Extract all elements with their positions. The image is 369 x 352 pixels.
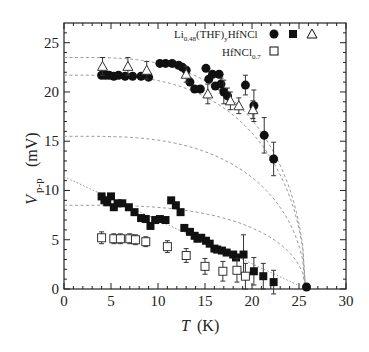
- y-tick-label: 15: [44, 133, 59, 149]
- x-tick-label: 15: [198, 293, 213, 309]
- legend-label-2: HfNCl0.7: [222, 46, 261, 61]
- y-axis-subscript: p-p: [32, 178, 44, 193]
- x-tick-label: 5: [107, 293, 115, 309]
- data-point-open-square: [219, 267, 227, 275]
- data-point-circle: [215, 70, 224, 79]
- data-point-open-square: [201, 262, 209, 270]
- legend-marker-square: [289, 30, 297, 38]
- data-point-circle: [196, 85, 205, 94]
- y-axis-unit: (mV): [23, 132, 41, 167]
- data-point-circle: [241, 81, 250, 90]
- data-point-square: [142, 215, 150, 223]
- data-point-open-square: [142, 238, 150, 246]
- x-tick-label: 0: [60, 293, 68, 309]
- x-tick-label: 30: [339, 293, 354, 309]
- data-point-open-square: [241, 272, 249, 280]
- legend-marker-open-square: [270, 47, 278, 55]
- plot-border: [64, 23, 346, 289]
- fit-curve: [64, 205, 306, 289]
- legend-marker-circle: [270, 30, 279, 39]
- data-point-square: [270, 278, 278, 286]
- data-point-square: [107, 192, 115, 200]
- data-point-square: [172, 201, 180, 209]
- data-point-triangle: [142, 65, 152, 74]
- legend-marker-triangle: [307, 29, 317, 38]
- y-axis-title: V: [23, 193, 40, 205]
- legend: Li0.48(THF)yHfNCl HfNCl0.7: [174, 28, 317, 61]
- data-point-open-square: [182, 252, 190, 260]
- plot-frame: [64, 23, 346, 289]
- axis-ticks: [64, 23, 346, 289]
- data-point-square: [240, 251, 248, 259]
- data-point-triangle: [98, 61, 108, 70]
- data-point-square: [232, 253, 240, 261]
- y-tick-label: 10: [44, 182, 59, 198]
- legend-label-1: Li0.48(THF)yHfNCl: [174, 28, 258, 43]
- data-point-open-square: [116, 235, 124, 243]
- data-point-open-square: [163, 243, 171, 251]
- y-axis-title-group: V p-p (mV): [23, 132, 44, 204]
- data-point-square: [259, 272, 267, 280]
- data-point-open-square: [131, 236, 139, 244]
- data-point-open-square: [98, 234, 106, 242]
- data-point-circle: [269, 154, 278, 163]
- x-tick-label: 25: [292, 293, 307, 309]
- data-point-square: [162, 216, 170, 224]
- y-tick-label: 0: [52, 281, 60, 297]
- tick-labels: 0510152025300510152025: [44, 35, 354, 309]
- y-tick-label: 25: [44, 35, 59, 51]
- data-point-circle: [302, 283, 311, 292]
- data-point-square: [250, 267, 258, 275]
- x-tick-label: 10: [151, 293, 166, 309]
- data-point-square: [177, 208, 185, 216]
- data-point-triangle: [123, 61, 133, 70]
- y-tick-label: 20: [44, 84, 59, 100]
- x-tick-label: 20: [245, 293, 260, 309]
- data-point-open-square: [233, 266, 241, 274]
- x-axis-unit: (K): [197, 317, 219, 335]
- data-point-circle: [260, 131, 269, 140]
- x-axis-title: T: [181, 317, 191, 334]
- data-marks: [97, 57, 311, 293]
- chart: 0510152025300510152025 T (K) V p-p (mV) …: [0, 0, 369, 352]
- data-point-circle: [128, 72, 137, 81]
- y-tick-label: 5: [52, 232, 60, 248]
